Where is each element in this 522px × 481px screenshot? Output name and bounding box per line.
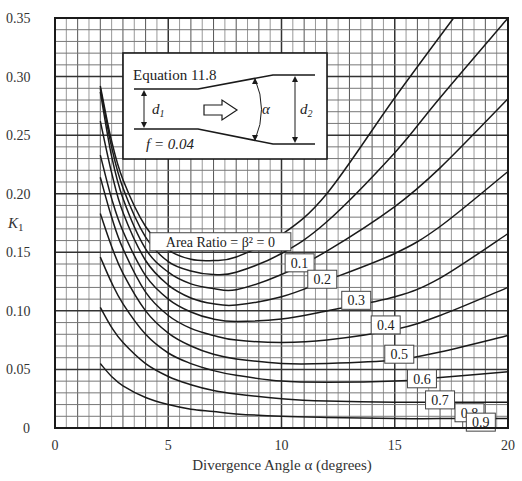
inset-equation-label: Equation 11.8 bbox=[133, 67, 217, 83]
y-tick-label: 0.35 bbox=[6, 11, 31, 26]
curve-label: Area Ratio = β² = 0 bbox=[150, 233, 291, 251]
curve-label: 0.2 bbox=[308, 270, 337, 288]
x-tick-label: 5 bbox=[165, 438, 172, 453]
curve-label: 0.7 bbox=[426, 391, 455, 409]
x-tick-label: 0 bbox=[52, 438, 59, 453]
svg-text:0.2: 0.2 bbox=[314, 272, 332, 287]
svg-text:0.4: 0.4 bbox=[377, 318, 395, 333]
x-tick-label: 20 bbox=[501, 438, 515, 453]
svg-text:Area Ratio = β² = 0: Area Ratio = β² = 0 bbox=[166, 235, 275, 250]
svg-text:0.7: 0.7 bbox=[431, 393, 449, 408]
curve-label: 0.1 bbox=[285, 254, 314, 272]
curve-label: 0.6 bbox=[407, 370, 436, 388]
svg-text:0.3: 0.3 bbox=[347, 293, 365, 308]
y-tick-label: 0.05 bbox=[6, 362, 31, 377]
diffuser-inset: Equation 11.8 f = 0.04 d1 α d2 bbox=[123, 53, 327, 159]
y-tick-label: 0.25 bbox=[6, 128, 31, 143]
y-tick-label: 0.30 bbox=[6, 70, 31, 85]
y-axis-label: K1 bbox=[7, 215, 24, 233]
y-tick-label: 0.10 bbox=[6, 304, 31, 319]
alpha-label: α bbox=[262, 101, 271, 117]
svg-text:0.1: 0.1 bbox=[291, 256, 309, 271]
curve-label: 0.5 bbox=[385, 345, 414, 363]
y-tick-label: 0.15 bbox=[6, 245, 31, 260]
y-tick-label: 0 bbox=[23, 421, 30, 436]
x-tick-label: 10 bbox=[275, 438, 289, 453]
x-tick-label: 15 bbox=[388, 438, 402, 453]
svg-text:0.6: 0.6 bbox=[413, 372, 431, 387]
svg-text:0.5: 0.5 bbox=[391, 347, 409, 362]
curve-label: 0.3 bbox=[342, 291, 371, 309]
x-axis-label: Divergence Angle α (degrees) bbox=[192, 457, 372, 474]
k1-vs-divergence-angle-chart: Area Ratio = β² = 00.10.20.30.40.50.60.7… bbox=[0, 0, 522, 481]
curve-label: 0.4 bbox=[371, 316, 400, 334]
inset-friction-label: f = 0.04 bbox=[146, 136, 195, 152]
y-tick-label: 0.20 bbox=[6, 187, 31, 202]
